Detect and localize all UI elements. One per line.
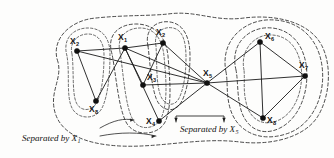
graph-vertex-x1[interactable]	[122, 45, 127, 50]
graph-vertex-x6[interactable]	[257, 39, 262, 44]
caption-sep-x5: Separated by X5	[180, 124, 238, 135]
graph-vertex-x2_left[interactable]	[74, 48, 79, 53]
vertex-label-subscript: 3	[153, 77, 156, 83]
vertex-label-subscript: 2	[76, 41, 79, 47]
graph-vertex-x7[interactable]	[302, 73, 307, 78]
caption-subscript: 1	[77, 138, 80, 144]
graph-vertex-x8_right[interactable]	[260, 115, 265, 120]
figure-canvas: X2X1X2X8X3X4X5X6X7X8 Separated by X1Sepa…	[0, 0, 334, 158]
caption-sep-x1: Separated by X1	[22, 133, 80, 144]
vertex-label-subscript: 5	[209, 73, 212, 79]
graph-vertex-x3[interactable]	[140, 82, 145, 87]
graph-separation-figure: X2X1X2X8X3X4X5X6X7X8 Separated by X1Sepa…	[0, 0, 334, 158]
vertex-label-subscript: 8	[273, 120, 276, 126]
graph-vertex-x8_left[interactable]	[93, 98, 98, 103]
graph-vertex-x5[interactable]	[204, 80, 209, 85]
caption-subscript: 5	[235, 129, 238, 135]
vertex-label-subscript: 1	[124, 37, 127, 43]
vertex-label-subscript: 6	[271, 36, 274, 42]
vertex-label-subscript: 8	[95, 109, 98, 115]
graph-vertex-x2_top[interactable]	[160, 40, 165, 45]
graph-vertex-x4[interactable]	[156, 118, 161, 123]
vertex-label-subscript: 7	[305, 65, 308, 71]
vertex-label-subscript: 2	[162, 32, 165, 38]
